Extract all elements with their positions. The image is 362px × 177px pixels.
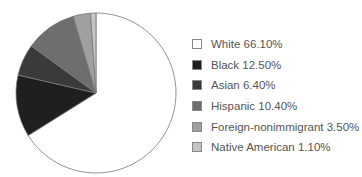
legend-item-foreign-nonimmigrant: Foreign-nonimmigrant 3.50% (192, 116, 359, 137)
legend-swatch-icon (192, 122, 202, 132)
legend-item-black: Black 12.50% (192, 55, 359, 76)
legend-swatch-icon (192, 142, 202, 152)
legend-swatch-icon (192, 60, 202, 70)
legend-item-asian: Asian 6.40% (192, 75, 359, 96)
legend-item-white: White 66.10% (192, 34, 359, 55)
chart-legend: White 66.10% Black 12.50% Asian 6.40% Hi… (192, 34, 359, 158)
pie-chart (0, 0, 190, 177)
legend-item-hispanic: Hispanic 10.40% (192, 96, 359, 117)
legend-swatch-icon (192, 39, 202, 49)
legend-item-native-american: Native American 1.10% (192, 137, 359, 158)
legend-swatch-icon (192, 101, 202, 111)
legend-swatch-icon (192, 80, 202, 90)
